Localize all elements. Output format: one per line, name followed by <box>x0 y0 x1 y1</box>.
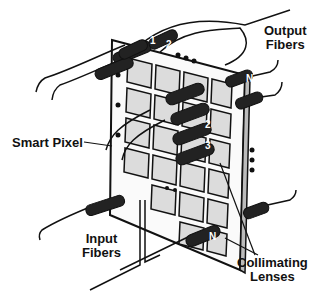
input-fibers-line2: Fibers <box>82 246 121 260</box>
collimating-lenses-line2: Lenses <box>237 270 308 284</box>
output-fibers-label: Output Fibers <box>264 24 307 52</box>
output-fibers-line2: Fibers <box>264 38 307 52</box>
lens-number-2: 2 <box>166 39 172 50</box>
lens-number-input-n: N <box>209 231 216 242</box>
output-fibers-line1: Output <box>264 24 307 38</box>
collimating-lenses-line1: Collimating <box>237 256 308 270</box>
smart-pixel-label: Smart Pixel <box>12 136 83 150</box>
lens-number-n: N <box>246 73 253 84</box>
lens-number-input-2: 2 <box>205 119 211 130</box>
input-fibers-line1: Input <box>82 232 121 246</box>
lens-number-1: 1 <box>150 35 156 46</box>
smart-pixel-diagram: 1 2 N 2 3 N <box>0 0 326 296</box>
input-fibers-label: Input Fibers <box>82 232 121 260</box>
lens-number-input-3: 3 <box>205 140 211 151</box>
collimating-lenses-label: Collimating Lenses <box>237 256 308 284</box>
